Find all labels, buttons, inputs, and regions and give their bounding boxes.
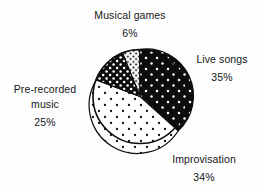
pie-label-pre-recorded-music-percent: 25%: [2, 115, 88, 130]
pie-label-live-songs-percent: 35%: [182, 70, 262, 85]
pie-label-pre-recorded-music-name-line1: Pre-recorded: [2, 82, 88, 97]
pie-label-improvisation-name: Improvisation: [148, 152, 260, 167]
pie-label-improvisation-percent: 34%: [148, 170, 260, 185]
pie-chart: Musical games 6% Live songs 35% Pre-reco…: [0, 0, 262, 190]
pie-label-live-songs-name: Live songs: [182, 52, 262, 67]
pie-label-live-songs: Live songs 35%: [182, 52, 262, 85]
pie-label-improvisation: Improvisation 34%: [148, 152, 260, 185]
pie-label-musical-games-name: Musical games: [60, 8, 200, 23]
pie-label-pre-recorded-music: Pre-recorded music 25%: [2, 82, 88, 131]
pie-label-musical-games: Musical games 6%: [60, 8, 200, 41]
pie-label-musical-games-percent: 6%: [60, 26, 200, 41]
pie-label-pre-recorded-music-name-line2: music: [2, 97, 88, 112]
